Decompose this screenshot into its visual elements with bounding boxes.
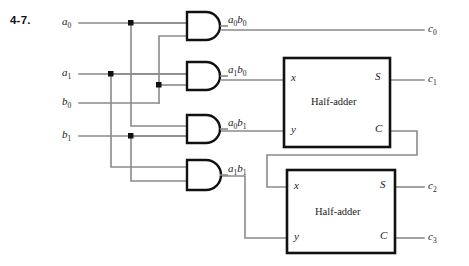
junction-a1 <box>108 71 114 77</box>
junction-b1 <box>128 133 134 139</box>
input-b0-label: b0 <box>62 96 71 110</box>
wire-b0-branch-up <box>159 36 186 103</box>
half-adder-lower-port-s: S <box>380 178 386 190</box>
half-adder-upper-port-y: y <box>291 123 296 135</box>
and-gate-a1b0-body <box>187 62 220 90</box>
half-adder-lower-port-x: x <box>294 179 299 191</box>
output-c2-label: c2 <box>428 180 437 194</box>
input-a0-label: a0 <box>62 16 71 30</box>
problem-number: 4-7. <box>10 14 31 26</box>
and-gate-a1b0-output-label: a1b0 <box>228 64 247 78</box>
half-adder-upper-port-c: C <box>375 122 382 134</box>
wire-b1-branch-down <box>131 136 186 181</box>
output-c1-label: c1 <box>428 73 437 87</box>
half-adder-upper-port-s: S <box>375 70 381 82</box>
half-adder-lower-port-c: C <box>380 229 387 241</box>
and-gate-a1b1-body <box>187 160 221 190</box>
wire-a1-branch-down <box>111 74 186 167</box>
half-adder-lower-title: Half-adder <box>315 206 360 217</box>
half-adder-upper-title: Half-adder <box>311 96 356 107</box>
circuit-diagram-figure: 4-7. a0 a1 b0 b1 a0b0 a1b0 a0b1 a1b1 x y… <box>0 0 469 266</box>
and-gate-a0b1-output-label: a0b1 <box>228 117 247 131</box>
input-a1-label: a1 <box>62 67 71 81</box>
output-c3-label: c3 <box>428 231 437 245</box>
and-gate-a0b1-body <box>187 115 220 143</box>
input-b1-label: b1 <box>62 129 71 143</box>
junction-b0 <box>156 82 162 88</box>
half-adder-lower-port-y: y <box>294 230 299 242</box>
junction-a0 <box>128 20 134 26</box>
and-gate-a1b1-output-label: a1b1 <box>228 163 247 177</box>
junction-dots <box>108 20 162 139</box>
half-adder-upper-port-x: x <box>291 71 296 83</box>
and-gate-a0b0-output-label: a0b0 <box>228 14 247 28</box>
wire-gate4-out-to-ha2-y <box>222 176 287 238</box>
and-gate-a0b0-body <box>187 12 220 40</box>
output-c0-label: c0 <box>428 23 437 37</box>
